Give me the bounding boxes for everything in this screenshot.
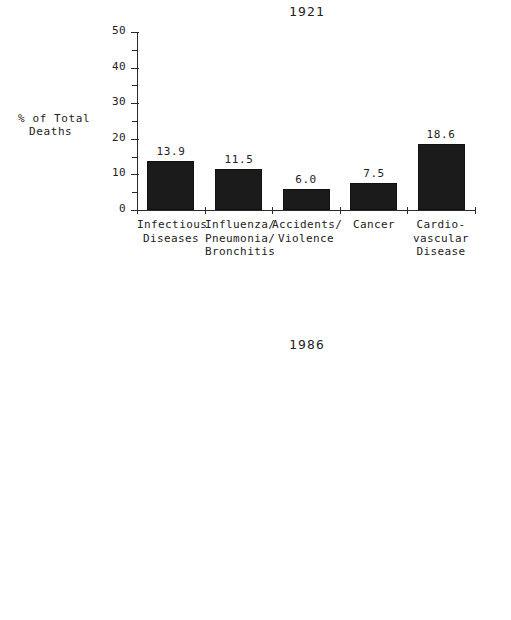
bar xyxy=(350,183,397,210)
x-axis-category-line: Accidents/ xyxy=(272,218,340,232)
y-axis-label-line2: Deaths xyxy=(18,125,118,138)
x-axis-category-label: Cancer xyxy=(340,218,408,232)
x-axis-category-line: Bronchitis xyxy=(205,245,273,259)
y-axis-major-tick: 10 xyxy=(131,174,139,175)
x-axis-category-line: Pneumonia/ xyxy=(205,232,273,246)
bar-value-label: 7.5 xyxy=(340,168,408,180)
x-axis-category-line: Violence xyxy=(272,232,340,246)
x-axis-category-line: Diseases xyxy=(137,232,205,246)
bar xyxy=(215,169,262,210)
y-axis-major-tick: 20 xyxy=(131,139,139,140)
y-axis-tick-label: 30 xyxy=(104,96,126,108)
chart-title-1986: 1986 xyxy=(46,337,511,352)
bar xyxy=(147,161,194,210)
y-axis-label-1921: % of Total Deaths xyxy=(18,112,118,138)
x-axis-category-line: Infectious xyxy=(137,218,205,232)
x-axis-category-line: Influenza/ xyxy=(205,218,273,232)
x-axis-tick xyxy=(205,207,206,214)
y-axis-minor-tick xyxy=(132,192,138,193)
x-axis-category-line: vascular xyxy=(407,232,475,246)
x-axis-tick xyxy=(340,207,341,214)
chart-1986: 1986 % of Total Deaths 010203040500.6Inf… xyxy=(0,310,511,620)
y-axis-major-tick: 40 xyxy=(131,68,139,69)
y-axis-minor-tick xyxy=(132,121,138,122)
x-axis-tick xyxy=(137,207,138,214)
chart-1921: 1921 % of Total Deaths 0102030405013.9In… xyxy=(0,0,511,310)
x-axis-category-line: Disease xyxy=(407,245,475,259)
chart-title-1921: 1921 xyxy=(46,4,511,19)
x-axis-category-line: Cancer xyxy=(340,218,408,232)
x-axis-tick xyxy=(272,207,273,214)
plot-area-1921: 0102030405013.9InfectiousDiseases11.5Inf… xyxy=(137,32,475,210)
x-axis-category-label: Cardio-vascularDisease xyxy=(407,218,475,259)
x-axis-category-label: Influenza/Pneumonia/Bronchitis xyxy=(205,218,273,259)
bar-value-label: 11.5 xyxy=(205,154,273,166)
bar-value-label: 6.0 xyxy=(272,174,340,186)
y-axis-tick-label: 0 xyxy=(104,203,126,215)
bar xyxy=(283,189,330,210)
y-axis-tick-label: 20 xyxy=(104,132,126,144)
bar-value-label: 13.9 xyxy=(137,146,205,158)
y-axis-label-line1: % of Total xyxy=(18,112,90,125)
y-axis-minor-tick xyxy=(132,85,138,86)
x-axis-tick xyxy=(475,207,476,214)
x-axis-category-line: Cardio- xyxy=(407,218,475,232)
x-axis-tick xyxy=(407,207,408,214)
y-axis-tick-label: 50 xyxy=(104,25,126,37)
y-axis-tick-label: 10 xyxy=(104,167,126,179)
bar-value-label: 18.6 xyxy=(407,129,475,141)
x-axis-category-label: Accidents/Violence xyxy=(272,218,340,245)
x-axis-category-label: InfectiousDiseases xyxy=(137,218,205,245)
y-axis-major-tick: 30 xyxy=(131,103,139,104)
y-axis-tick-label: 40 xyxy=(104,61,126,73)
y-axis-minor-tick xyxy=(132,50,138,51)
x-axis-line xyxy=(137,210,475,211)
bar xyxy=(418,144,465,210)
y-axis-major-tick: 50 xyxy=(131,32,139,33)
